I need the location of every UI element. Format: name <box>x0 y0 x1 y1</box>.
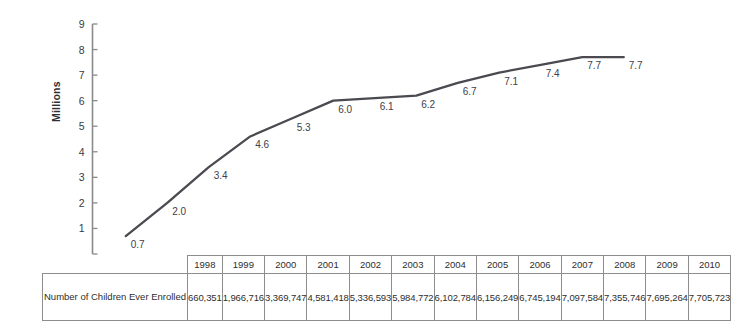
table-col-header-2010: 2010 <box>688 256 730 274</box>
table-cell-2004: 6,102,784 <box>434 274 476 321</box>
chart-area: Millions 123456789 0.72.03.44.65.36.06.1… <box>0 0 675 256</box>
line-chart-plot <box>0 0 675 256</box>
table-cell-2009: 7,695,264 <box>646 274 688 321</box>
point-label-2007: 7.1 <box>504 77 518 87</box>
point-label-2001: 4.6 <box>255 140 269 150</box>
table-col-header-2000: 2000 <box>265 256 307 274</box>
table-cell-2003: 5,984,772 <box>392 274 434 321</box>
table-cell-2008: 7,355,746 <box>604 274 646 321</box>
point-label-2000: 3.4 <box>214 171 228 181</box>
table-col-header-2005: 2005 <box>476 256 518 274</box>
table-col-header-1998: 1998 <box>188 256 223 274</box>
table-col-header-1999: 1999 <box>222 256 264 274</box>
table-col-header-2004: 2004 <box>434 256 476 274</box>
point-label-2004: 6.1 <box>380 102 394 112</box>
table-cell-2007: 7,097,584 <box>561 274 603 321</box>
point-label-2010: 7.7 <box>629 61 643 71</box>
table-cell-2006: 6,745,194 <box>519 274 561 321</box>
table-row-header: Number of Children Ever Enrolled <box>43 274 188 321</box>
table-cell-1999: 1,966,716 <box>222 274 264 321</box>
table-col-header-2006: 2006 <box>519 256 561 274</box>
table-col-header-2002: 2002 <box>349 256 391 274</box>
point-label-1999: 2.0 <box>172 207 186 217</box>
data-series-line <box>126 57 624 236</box>
point-label-1998: 0.7 <box>131 240 145 250</box>
table-col-header-2001: 2001 <box>307 256 349 274</box>
point-label-2005: 6.2 <box>421 100 435 110</box>
table-cell-1998: 660,351 <box>188 274 223 321</box>
point-label-2008: 7.4 <box>546 69 560 79</box>
table-col-header-2008: 2008 <box>604 256 646 274</box>
point-label-2009: 7.7 <box>587 61 601 71</box>
table-cell-2005: 6,156,249 <box>476 274 518 321</box>
data-table: 1998199920002001200220032004200520062007… <box>42 255 731 321</box>
table-header-row: 1998199920002001200220032004200520062007… <box>43 256 731 274</box>
point-label-2006: 6.7 <box>463 87 477 97</box>
table-cell-2010: 7,705,723 <box>688 274 730 321</box>
table-corner-cell <box>43 256 188 274</box>
point-label-2002: 5.3 <box>297 123 311 133</box>
table-cell-2001: 4,581,418 <box>307 274 349 321</box>
table-col-header-2007: 2007 <box>561 256 603 274</box>
point-label-2003: 6.0 <box>338 105 352 115</box>
table-cell-2000: 3,369,747 <box>265 274 307 321</box>
y-axis <box>93 24 98 254</box>
table-cell-2002: 5,336,593 <box>349 274 391 321</box>
table-col-header-2003: 2003 <box>392 256 434 274</box>
table-row: Number of Children Ever Enrolled 660,351… <box>43 274 731 321</box>
table-col-header-2009: 2009 <box>646 256 688 274</box>
